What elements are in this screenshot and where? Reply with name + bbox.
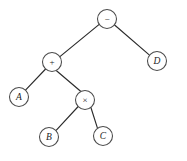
node-label-times: × xyxy=(82,95,87,105)
tree-edges-group xyxy=(26,24,150,130)
node-label-c: C xyxy=(100,131,107,141)
tree-svg-canvas: −+DA×BC xyxy=(0,0,187,161)
tree-nodes-group: −+DA×BC xyxy=(10,10,167,147)
expression-tree-diagram: −+DA×BC xyxy=(0,0,187,161)
tree-edge-plus-times xyxy=(57,71,81,92)
tree-node-root[interactable]: − xyxy=(98,10,117,29)
tree-edge-root-plus xyxy=(60,24,99,56)
node-label-a: A xyxy=(15,92,22,102)
tree-node-c[interactable]: C xyxy=(94,127,113,146)
tree-edge-times-c xyxy=(91,108,97,128)
tree-edge-root-d xyxy=(115,25,150,55)
tree-node-b[interactable]: B xyxy=(40,128,59,147)
tree-edge-times-b xyxy=(56,107,78,131)
tree-node-plus[interactable]: + xyxy=(43,53,62,72)
node-label-plus: + xyxy=(49,57,54,67)
tree-edge-plus-a xyxy=(26,69,46,90)
tree-node-d[interactable]: D xyxy=(148,52,167,71)
node-label-b: B xyxy=(46,132,52,142)
node-label-d: D xyxy=(153,56,161,66)
tree-node-a[interactable]: A xyxy=(10,88,29,107)
node-label-root: − xyxy=(104,14,109,24)
tree-node-times[interactable]: × xyxy=(76,91,95,110)
